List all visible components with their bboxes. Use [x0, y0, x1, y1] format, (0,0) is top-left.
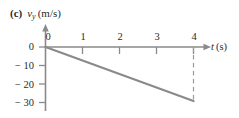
x-tick-label-2: 2 [110, 31, 130, 42]
x-axis-symbol: t [211, 41, 214, 52]
x-axis [46, 44, 212, 51]
x-axis-ticks [83, 47, 194, 54]
x-tick-label-3: 3 [147, 31, 167, 42]
y-axis-ticks [39, 47, 46, 103]
x-axis-label: t(s) [211, 41, 227, 52]
x-tick-label-1: 1 [73, 31, 93, 42]
plot-area [0, 0, 239, 118]
y-tick-label-minus-30: − 30 [4, 97, 34, 108]
y-tick-label-minus-20: − 20 [4, 79, 34, 90]
velocity-time-graph-figure: (c)vy(m/s) 0 [0, 0, 239, 118]
y-tick-label-minus-10: − 10 [4, 60, 34, 71]
x-tick-label-0: 0 [38, 31, 58, 42]
x-axis-arrowhead [204, 44, 212, 51]
x-tick-label-4: 4 [184, 31, 204, 42]
velocity-data-line [46, 47, 194, 101]
x-axis-units: (s) [216, 41, 227, 52]
y-tick-label-0: 0 [4, 41, 34, 52]
